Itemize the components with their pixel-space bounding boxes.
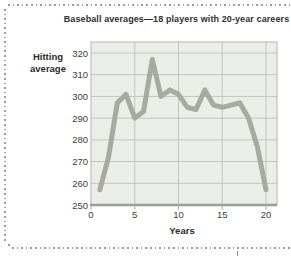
x-tick-label: 15 bbox=[210, 209, 234, 220]
y-tick-label: 320 bbox=[50, 48, 88, 59]
x-tick-label: 10 bbox=[167, 209, 191, 220]
y-tick-label: 260 bbox=[50, 178, 88, 189]
y-tick-label: 280 bbox=[50, 134, 88, 145]
y-tick-label: 270 bbox=[50, 156, 88, 167]
x-tick-label: 0 bbox=[79, 209, 103, 220]
figure-card: Baseball averages—18 players with 20-yea… bbox=[0, 0, 291, 259]
line-chart bbox=[0, 0, 291, 259]
y-tick-label: 290 bbox=[50, 113, 88, 124]
x-tick-label: 20 bbox=[254, 209, 278, 220]
y-tick-label: 310 bbox=[50, 69, 88, 80]
x-axis-title: Years bbox=[147, 225, 217, 236]
y-tick-label: 300 bbox=[50, 91, 88, 102]
x-tick-label: 5 bbox=[123, 209, 147, 220]
page-artifact-mark bbox=[237, 251, 238, 256]
